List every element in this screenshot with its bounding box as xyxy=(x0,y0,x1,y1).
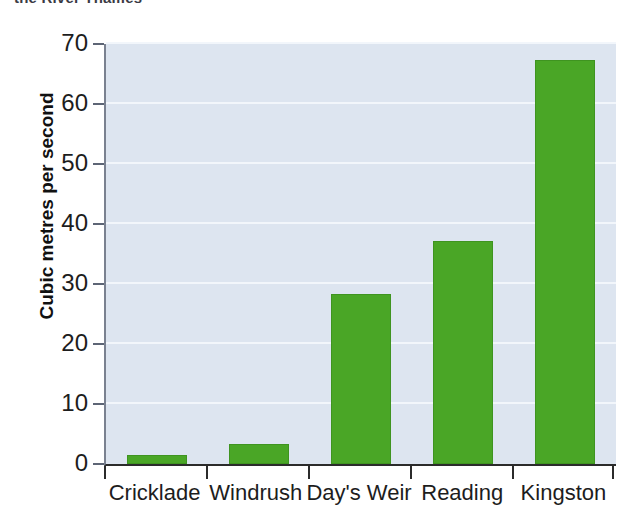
bar-slot xyxy=(412,44,514,464)
x-axis-tick-mark xyxy=(512,466,514,479)
x-axis-tick-label: Windrush xyxy=(205,480,306,506)
x-axis-ticks xyxy=(104,466,614,480)
bar-slot xyxy=(310,44,412,464)
bar xyxy=(535,60,594,464)
y-axis-tick-mark xyxy=(93,343,104,345)
y-axis-tick-label: 50 xyxy=(61,151,88,175)
y-axis-tick-mark xyxy=(93,403,104,405)
x-axis-tick-label: Day's Weir xyxy=(306,480,411,506)
bar xyxy=(331,294,390,464)
x-axis-tick-mark xyxy=(104,466,106,479)
bar xyxy=(433,241,492,464)
bar-slot xyxy=(106,44,208,464)
y-axis-tick-mark xyxy=(93,163,104,165)
x-axis-tick-mark xyxy=(206,466,208,479)
y-axis-tick-label: 20 xyxy=(61,331,88,355)
y-axis-tick-label: 30 xyxy=(61,271,88,295)
y-axis-tick-mark xyxy=(93,103,104,105)
y-axis-tick-label: 10 xyxy=(61,391,88,415)
y-axis-tick-mark xyxy=(93,463,104,465)
y-axis-tick-label: 40 xyxy=(61,211,88,235)
x-axis-labels: CrickladeWindrushDay's WeirReadingKingst… xyxy=(104,480,614,506)
y-axis-ticks: 010203040506070 xyxy=(0,44,104,464)
y-axis-tick-label: 70 xyxy=(61,31,88,55)
y-axis-tick-mark xyxy=(93,283,104,285)
bar-series xyxy=(106,44,616,464)
bar xyxy=(127,455,186,464)
bar xyxy=(229,444,288,464)
y-axis-tick-label: 60 xyxy=(61,91,88,115)
y-axis-tick-mark xyxy=(93,223,104,225)
bar-slot xyxy=(514,44,616,464)
x-axis-tick-label: Cricklade xyxy=(104,480,205,506)
bar-slot xyxy=(208,44,310,464)
plot-area xyxy=(104,44,616,466)
x-axis-tick-mark xyxy=(410,466,412,479)
x-axis-tick-mark xyxy=(308,466,310,479)
x-axis-tick-label: Kingston xyxy=(513,480,614,506)
x-axis-tick-label: Reading xyxy=(412,480,513,506)
y-axis-tick-mark xyxy=(93,43,104,45)
y-axis-tick-label: 0 xyxy=(75,451,88,475)
bar-chart-figure: Cubic metres per second 010203040506070 … xyxy=(0,0,636,531)
x-axis-tick-mark xyxy=(612,466,614,479)
